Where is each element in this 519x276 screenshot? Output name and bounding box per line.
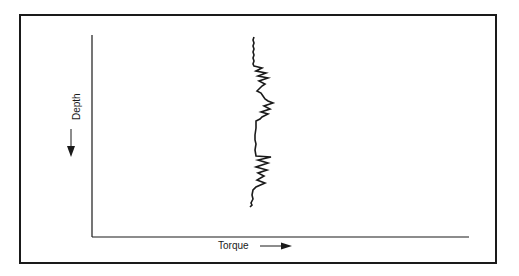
x-axis-label: Torque <box>218 240 249 251</box>
torque-depth-plot <box>0 0 519 276</box>
depth-arrow-icon <box>67 146 75 157</box>
y-axis-label: Depth <box>71 93 82 120</box>
torque-arrow-icon <box>281 243 292 250</box>
torque-trace <box>250 37 273 207</box>
